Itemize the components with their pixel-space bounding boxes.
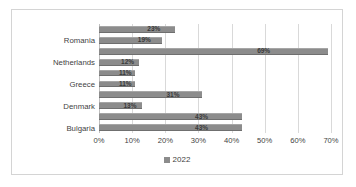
bar-row: 19% xyxy=(99,37,331,44)
x-axis-tick-30%: 30% xyxy=(191,136,206,145)
x-axis-tick-0%: 0% xyxy=(94,136,105,145)
chart-frame: RomaniaNetherlandsGreeceDenmarkBulgaria … xyxy=(11,9,343,175)
bar-row: 43% xyxy=(99,113,331,120)
category-label-bulgaria: Bulgaria xyxy=(66,123,95,132)
bar-row: 11% xyxy=(99,70,331,77)
bar-row: 43% xyxy=(99,124,331,131)
legend-label-2022: 2022 xyxy=(173,156,191,164)
bar-data-label: 19% xyxy=(138,37,151,44)
x-axis-tick-60%: 60% xyxy=(290,136,305,145)
bar-row: 69% xyxy=(99,48,331,55)
bar-data-label: 23% xyxy=(147,26,160,33)
bar-row: 13% xyxy=(99,102,331,109)
bar-data-label: 69% xyxy=(257,48,270,55)
x-axis-tick-labels: 0%10%20%30%40%50%60%70% xyxy=(99,136,331,150)
x-axis-tick-20%: 20% xyxy=(158,136,173,145)
category-label-netherlands: Netherlands xyxy=(53,58,95,67)
plot-area: 23%19%69%12%11%11%31%13%43%43% xyxy=(99,24,331,133)
bar-data-label: 11% xyxy=(119,70,132,77)
x-axis-tick-40%: 40% xyxy=(224,136,239,145)
chart-legend: 2022 xyxy=(12,156,342,164)
bar-row: 12% xyxy=(99,59,331,66)
bar-data-label: 12% xyxy=(121,59,134,66)
bar-row: 31% xyxy=(99,91,331,98)
x-axis-tick-70%: 70% xyxy=(323,136,338,145)
bar-row: 23% xyxy=(99,26,331,33)
gridline-70% xyxy=(331,24,332,133)
category-label-greece: Greece xyxy=(69,79,95,88)
bar-data-label: 43% xyxy=(195,113,208,120)
bar xyxy=(99,124,242,131)
bar-data-label: 31% xyxy=(166,92,179,99)
bar-data-label: 11% xyxy=(119,81,132,88)
category-label-romania: Romania xyxy=(64,36,95,45)
bar xyxy=(99,113,242,120)
bar-data-label: 43% xyxy=(195,124,208,131)
bar xyxy=(99,48,328,55)
category-axis: RomaniaNetherlandsGreeceDenmarkBulgaria xyxy=(12,24,95,133)
bar xyxy=(99,26,175,33)
bar xyxy=(99,37,162,44)
bar-data-label: 13% xyxy=(124,102,137,109)
bar xyxy=(99,91,202,98)
x-axis-tick-10%: 10% xyxy=(125,136,140,145)
category-label-denmark: Denmark xyxy=(63,101,95,110)
bar-row: 11% xyxy=(99,81,331,88)
x-axis-tick-50%: 50% xyxy=(257,136,272,145)
legend-swatch-2022 xyxy=(164,157,170,163)
